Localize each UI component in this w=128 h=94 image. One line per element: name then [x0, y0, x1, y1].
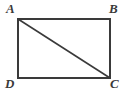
vertex-label-a: A: [6, 2, 15, 15]
diagonal-line-ac: [18, 19, 110, 78]
vertex-label-c: C: [110, 77, 119, 90]
geometry-figure: A B C D: [0, 0, 128, 94]
vertex-label-d: D: [5, 77, 14, 90]
vertex-label-b: B: [109, 2, 118, 15]
